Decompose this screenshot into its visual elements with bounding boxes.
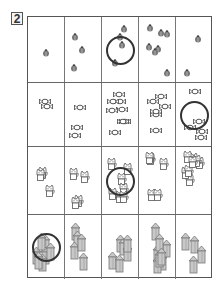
- house-icon: [76, 233, 87, 252]
- bug-icon: [163, 69, 171, 77]
- candy-icon: [150, 108, 162, 115]
- grid-cell[interactable]: [102, 147, 139, 214]
- cat-icon: [35, 169, 46, 182]
- candy-icon: [117, 118, 129, 125]
- grid-cell[interactable]: [139, 83, 176, 146]
- cat-icon: [79, 171, 90, 184]
- house-icon: [188, 255, 199, 274]
- grid-cell[interactable]: [176, 83, 213, 146]
- grid-cell[interactable]: [65, 147, 102, 214]
- circle-mark: [106, 36, 135, 65]
- candy-icon: [41, 103, 53, 110]
- cat-icon: [158, 158, 169, 171]
- grid-row-house: [28, 215, 211, 279]
- grid-row-candy: [28, 83, 211, 147]
- house-icon: [156, 247, 167, 266]
- candy-icon: [113, 91, 125, 98]
- cat-icon: [68, 168, 79, 181]
- cat-icon: [144, 152, 155, 165]
- cat-icon: [187, 156, 198, 169]
- bug-icon: [183, 69, 191, 77]
- circle-mark: [32, 233, 61, 262]
- cat-icon: [152, 189, 163, 202]
- grid-cell[interactable]: [139, 147, 176, 214]
- candy-icon: [74, 104, 86, 111]
- house-icon: [180, 232, 191, 251]
- bug-icon: [194, 35, 202, 43]
- candy-icon: [155, 93, 167, 100]
- candy-icon: [69, 132, 81, 139]
- bug-icon: [42, 49, 50, 57]
- candy-icon: [106, 107, 118, 114]
- circle-mark: [180, 101, 209, 130]
- grid-cell[interactable]: [139, 17, 176, 82]
- circle-mark: [106, 167, 135, 196]
- grid-cell[interactable]: [176, 215, 213, 279]
- grid-cell[interactable]: [28, 147, 65, 214]
- candy-icon: [189, 88, 201, 95]
- candy-icon: [71, 124, 83, 131]
- bug-icon: [71, 33, 79, 41]
- candy-icon: [109, 129, 121, 136]
- cat-icon: [70, 197, 81, 210]
- grid-cell[interactable]: [28, 17, 65, 82]
- candy-icon: [107, 98, 119, 105]
- grid-cell[interactable]: [65, 83, 102, 146]
- grid-cell[interactable]: [102, 83, 139, 146]
- grid-row-cat: [28, 147, 211, 215]
- bug-icon: [146, 24, 154, 32]
- cat-icon: [44, 185, 55, 198]
- bug-icon: [70, 64, 78, 72]
- grid-cell[interactable]: [65, 17, 102, 82]
- house-icon: [78, 252, 89, 271]
- puzzle-number: 2: [11, 12, 23, 25]
- grid-cell[interactable]: [28, 83, 65, 146]
- grid-cell[interactable]: [28, 215, 65, 279]
- grid-cell[interactable]: [65, 215, 102, 279]
- grid-cell[interactable]: [139, 215, 176, 279]
- grid-cell[interactable]: [176, 147, 213, 214]
- bug-icon: [151, 48, 159, 56]
- grid-cell[interactable]: [102, 215, 139, 279]
- house-icon: [122, 234, 133, 253]
- grid-cell[interactable]: [102, 17, 139, 82]
- counting-grid: [27, 16, 212, 278]
- bug-icon: [78, 46, 86, 54]
- bug-icon: [163, 30, 171, 38]
- grid-cell[interactable]: [176, 17, 213, 82]
- house-icon: [114, 254, 125, 273]
- grid-row-bug: [28, 17, 211, 83]
- candy-icon: [150, 127, 162, 134]
